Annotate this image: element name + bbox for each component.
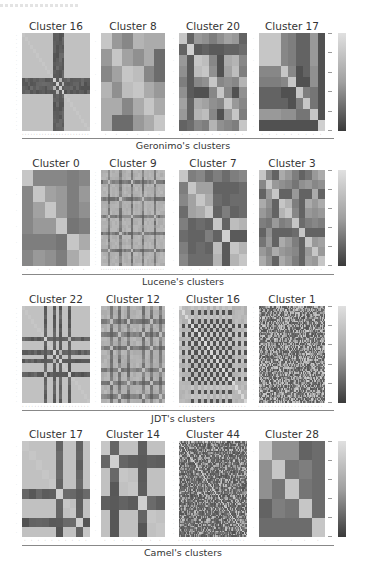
heatmap-panel: Cluster 44--------------------ıııııııııı… (179, 441, 247, 537)
y-axis-ticks: --------- (173, 33, 176, 131)
y-axis-ticks: ----- (253, 441, 256, 537)
panel-title: Cluster 17 (259, 20, 325, 32)
panel-title: Cluster 44 (179, 428, 247, 440)
colorbar-ticks (328, 441, 334, 537)
y-axis-ticks: ---------------------- (95, 306, 98, 403)
x-axis-ticks: ıııııııııııııııııııııııı (22, 133, 90, 137)
x-axis-ticks: ııııııııı (179, 133, 247, 137)
panel-title: Cluster 9 (101, 157, 165, 169)
x-axis-ticks: ıııııııııııııııııııııı (22, 405, 90, 409)
x-axis-ticks: ıııııı (101, 133, 165, 137)
panel-title: Cluster 22 (22, 293, 90, 305)
colorbar (338, 170, 346, 266)
y-axis-ticks: ---------------------- (173, 306, 176, 403)
group-caption: Camel's clusters (0, 547, 366, 558)
panel-title: Cluster 14 (101, 428, 165, 440)
x-axis-ticks: ıııııııııı (22, 539, 90, 543)
x-axis-ticks: ıııııııııııııııııııı (259, 405, 325, 409)
heatmap-grid (179, 306, 247, 403)
heatmap-grid (101, 170, 165, 266)
heatmap-panel: Cluster 8------ıııııı (101, 33, 165, 131)
panel-title: Cluster 28 (259, 428, 325, 440)
heatmap-panel: Cluster 28-----ııııı (259, 441, 325, 537)
y-axis-ticks: ---------------------- (16, 306, 19, 403)
group-caption: Lucene's clusters (0, 276, 366, 287)
heatmap-grid (22, 33, 90, 131)
colorbar-ticks (328, 306, 334, 403)
heatmap-panel: Cluster 20---------ııııııııı (179, 33, 247, 131)
colorbar-ticks (328, 33, 334, 131)
colorbar-ticks (328, 170, 334, 266)
x-axis-ticks: ııııı (259, 539, 325, 543)
heatmap-grid (22, 441, 90, 537)
panel-title: Cluster 16 (179, 293, 247, 305)
heatmap-panel: Cluster 9----------------------------ııı… (101, 170, 165, 266)
group-caption: JDT's clusters (0, 413, 366, 424)
y-axis-ticks: ---------------------------- (95, 170, 98, 266)
x-axis-ticks: ıııııııııııııııııııııııııııı (101, 268, 165, 272)
panel-title: Cluster 3 (259, 157, 325, 169)
x-axis-ticks: ııııııı (101, 539, 165, 543)
divider (22, 274, 334, 275)
colorbar (338, 306, 346, 403)
y-axis-ticks: -------- (173, 170, 176, 266)
heatmap-panel: Cluster 16------------------------ıııııı… (22, 33, 90, 131)
divider (22, 410, 334, 411)
panel-title: Cluster 1 (259, 293, 325, 305)
y-axis-ticks: ------------------------ (16, 33, 19, 131)
heatmap-grid (22, 170, 90, 266)
heatmap-panel: Cluster 22----------------------ıııııııı… (22, 306, 90, 403)
heatmap-grid (259, 33, 325, 131)
y-axis-ticks: ---------- (253, 170, 256, 266)
row-lucene: Cluster 0------ıııııı Cluster 9---------… (0, 157, 366, 293)
top-fragment (0, 4, 80, 7)
heatmap-panel: Cluster 7--------ıııııııı (179, 170, 247, 266)
panel-title: Cluster 8 (101, 20, 165, 32)
heatmap-grid (259, 306, 325, 403)
heatmap-grid (101, 306, 165, 403)
heatmap-panel: Cluster 1--------------------ııııııııııı… (259, 306, 325, 403)
x-axis-ticks: ıııııııııııııııııııııı (101, 405, 165, 409)
y-axis-ticks: -------------------- (173, 441, 176, 537)
x-axis-ticks: ııııııııı (259, 133, 325, 137)
heatmap-panel: Cluster 0------ıııııı (22, 170, 90, 266)
row-camel: Cluster 17----------ıııııııııı Cluster 1… (0, 428, 366, 564)
panel-title: Cluster 7 (179, 157, 247, 169)
panel-title: Cluster 12 (101, 293, 165, 305)
heatmap-panel: Cluster 12----------------------ıııııııı… (101, 306, 165, 403)
divider (22, 138, 334, 139)
row-geronimo: Cluster 16------------------------ıııııı… (0, 20, 366, 156)
heatmap-panel: Cluster 14-------ııııııı (101, 441, 165, 537)
heatmap-grid (101, 441, 165, 537)
panel-title: Cluster 16 (22, 20, 90, 32)
x-axis-ticks: ıııııııııııııııııııııı (179, 405, 247, 409)
group-caption: Geronimo's clusters (0, 140, 366, 151)
colorbar (338, 441, 346, 537)
heatmap-grid (179, 33, 247, 131)
y-axis-ticks: ------ (95, 33, 98, 131)
heatmap-grid (259, 441, 325, 537)
colorbar (338, 33, 346, 131)
heatmap-grid (179, 170, 247, 266)
y-axis-ticks: ------- (95, 441, 98, 537)
heatmap-grid (259, 170, 325, 266)
heatmap-panel: Cluster 17---------ııııııııı (259, 33, 325, 131)
heatmap-grid (179, 441, 247, 537)
x-axis-ticks: ıııııııı (179, 268, 247, 272)
heatmap-panel: Cluster 16----------------------ıııııııı… (179, 306, 247, 403)
panel-title: Cluster 20 (179, 20, 247, 32)
y-axis-ticks: --------- (253, 33, 256, 131)
y-axis-ticks: ------ (16, 170, 19, 266)
heatmap-grid (101, 33, 165, 131)
x-axis-ticks: ıııııııııııııııııııı (179, 539, 247, 543)
y-axis-ticks: -------------------- (253, 306, 256, 403)
y-axis-ticks: ---------- (16, 441, 19, 537)
divider (22, 545, 334, 546)
panel-title: Cluster 17 (22, 428, 90, 440)
x-axis-ticks: ıııııııııı (259, 268, 325, 272)
row-jdt: Cluster 22----------------------ıııııııı… (0, 293, 366, 429)
heatmap-grid (22, 306, 90, 403)
panel-title: Cluster 0 (22, 157, 90, 169)
heatmap-panel: Cluster 17----------ıııııııııı (22, 441, 90, 537)
heatmap-panel: Cluster 3----------ıııııııııı (259, 170, 325, 266)
